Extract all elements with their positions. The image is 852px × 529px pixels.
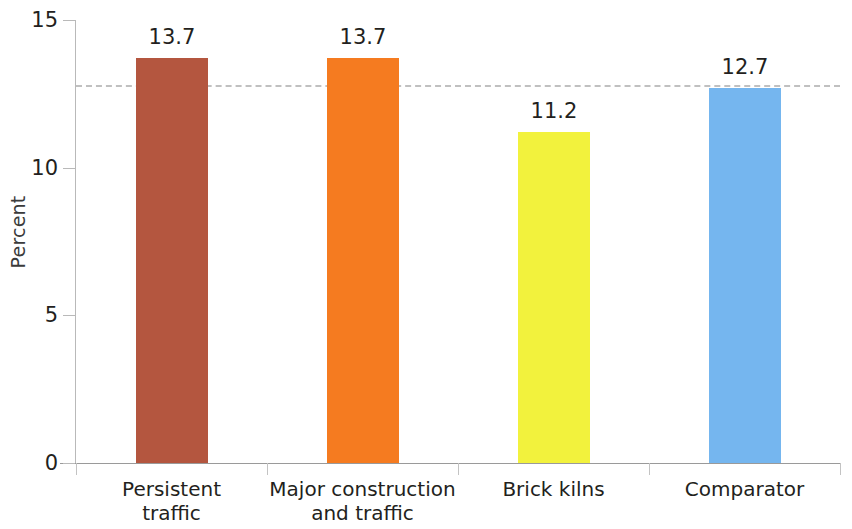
y-axis-tick-label: 15 [0, 10, 58, 31]
x-axis-line [60, 463, 840, 464]
y-axis-title: Percent [0, 0, 36, 463]
bar-chart: Percent 051015 13.713.711.212.7 Persiste… [0, 0, 852, 529]
bar-value-label: 13.7 [297, 27, 429, 48]
bar-value-label: 11.2 [488, 101, 620, 122]
bar[interactable] [136, 58, 208, 463]
x-axis-tick [649, 463, 650, 475]
bar-value-label: 13.7 [106, 27, 238, 48]
y-axis-tick [63, 168, 75, 169]
x-axis-category-label: Major construction and traffic [260, 478, 465, 525]
x-axis-tick [267, 463, 268, 475]
y-axis-tick-label: 10 [0, 157, 58, 178]
x-axis-tick [458, 463, 459, 475]
x-axis-tick [76, 463, 77, 475]
x-axis-category-label: Brick kilns [451, 478, 656, 502]
x-axis-category-label: Persistent traffic [69, 478, 274, 525]
y-axis-tick-label: 0 [0, 453, 58, 474]
y-axis-tick-label: 5 [0, 305, 58, 326]
y-axis-tick [63, 20, 75, 21]
bar-value-label: 12.7 [679, 57, 811, 78]
bar[interactable] [518, 132, 590, 463]
bar[interactable] [327, 58, 399, 463]
x-axis-category-label: Comparator [642, 478, 847, 502]
y-axis-tick [63, 463, 75, 464]
x-axis-tick [840, 463, 841, 475]
y-axis-tick [63, 315, 75, 316]
bar[interactable] [709, 88, 781, 463]
y-axis-title-label: Percent [7, 195, 29, 268]
